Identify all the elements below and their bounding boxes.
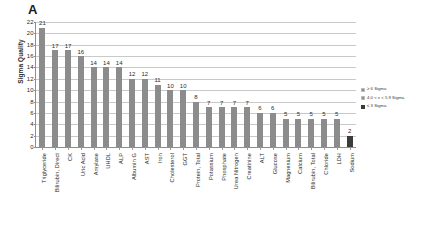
legend-color-swatch <box>361 105 365 109</box>
bar[interactable] <box>91 67 97 147</box>
bar[interactable] <box>167 90 173 147</box>
x-axis-tick-label: Triglyceride <box>42 153 48 183</box>
bar[interactable] <box>193 102 199 147</box>
bar-group[interactable]: 2Sodium <box>343 22 356 147</box>
x-axis-tick-label: Albumin G <box>132 153 138 180</box>
legend-label: ≥ 6 Sigma <box>367 87 386 91</box>
bar-group[interactable]: 10GGT <box>177 22 190 147</box>
x-axis-tick-mark <box>260 147 261 150</box>
bar[interactable] <box>39 28 45 147</box>
y-axis-tick-label: 2 <box>30 133 33 139</box>
bar-group[interactable]: 14Amylase <box>87 22 100 147</box>
bar-group[interactable]: 17Bilirubin, Direct <box>49 22 62 147</box>
bar[interactable] <box>219 107 225 147</box>
bar-value-label: 7 <box>220 100 223 106</box>
bar[interactable] <box>116 67 122 147</box>
legend-item[interactable]: 4.0 < x < 5.9 Sigma <box>361 95 429 102</box>
x-axis-tick-mark <box>209 147 210 150</box>
bar-group[interactable]: 5Magnesium <box>279 22 292 147</box>
bar-value-label: 17 <box>65 43 72 49</box>
bar[interactable] <box>206 107 212 147</box>
bar-value-label: 5 <box>335 111 338 117</box>
bar-value-label: 8 <box>194 94 197 100</box>
bar-series: 21Triglyceride17Bilirubin, Direct17CK16U… <box>36 22 356 147</box>
x-axis-tick-mark <box>298 147 299 150</box>
bar-group[interactable]: 6ALT <box>254 22 267 147</box>
bar-value-label: 5 <box>310 111 313 117</box>
bar[interactable] <box>180 90 186 147</box>
x-axis-tick-label: Magnesium <box>286 153 292 183</box>
bar-value-label: 6 <box>258 105 261 111</box>
legend-item[interactable]: ≤ 3 Sigma <box>361 103 429 110</box>
bar-value-label: 14 <box>103 60 110 66</box>
y-axis-tick-label: 8 <box>30 99 33 105</box>
bar-group[interactable]: 14ALP <box>113 22 126 147</box>
bar[interactable] <box>270 113 276 147</box>
bar-group[interactable]: 16Uric Acid <box>74 22 87 147</box>
bar-group[interactable]: 8Protein, Total <box>190 22 203 147</box>
bar[interactable] <box>78 56 84 147</box>
bar-group[interactable]: 5Chloride <box>318 22 331 147</box>
x-axis-tick-label: Uric Acid <box>81 153 87 176</box>
legend-item[interactable]: ≥ 6 Sigma <box>361 86 429 93</box>
bar-group[interactable]: 6Glucose <box>266 22 279 147</box>
x-axis-tick-label: Calcium <box>298 153 304 174</box>
bar-group[interactable]: 17CK <box>62 22 75 147</box>
x-axis-tick-label: Iron <box>158 153 164 163</box>
bar-value-label: 10 <box>167 83 174 89</box>
bar-group[interactable]: 14UHDL <box>100 22 113 147</box>
bar-value-label: 14 <box>116 60 123 66</box>
bar[interactable] <box>334 119 340 147</box>
x-axis-tick-label: Protein, Total <box>196 153 202 187</box>
y-axis-tick-label: 10 <box>27 87 34 93</box>
bar[interactable] <box>283 119 289 147</box>
bar[interactable] <box>244 107 250 147</box>
x-axis-tick-mark <box>68 147 69 150</box>
bar[interactable] <box>257 113 263 147</box>
bar[interactable] <box>231 107 237 147</box>
x-axis-tick-label: Amylase <box>94 153 100 175</box>
y-axis-title: Sigma Quality <box>17 17 24 107</box>
bar-group[interactable]: 5LDH <box>330 22 343 147</box>
x-axis-tick-mark <box>42 147 43 150</box>
bar[interactable] <box>65 50 71 147</box>
x-axis-tick-label: LDH <box>337 153 343 165</box>
bar-group[interactable]: 7Potassium <box>202 22 215 147</box>
panel-label: A <box>28 2 37 17</box>
y-axis-tick-label: 6 <box>30 110 33 116</box>
bar-group[interactable]: 21Triglyceride <box>36 22 49 147</box>
x-axis-tick-mark <box>158 147 159 150</box>
bar[interactable] <box>347 136 353 147</box>
bar-group[interactable]: 11Iron <box>151 22 164 147</box>
bar[interactable] <box>52 50 58 147</box>
figure-panel-a: A Sigma Quality 0246810121416182022 21Tr… <box>0 0 432 225</box>
y-axis-tick-label: 0 <box>30 144 33 150</box>
bar-group[interactable]: 7Phosphate <box>215 22 228 147</box>
bar[interactable] <box>103 67 109 147</box>
bar-group[interactable]: 12AST <box>138 22 151 147</box>
bar-group[interactable]: 12Albumin G <box>126 22 139 147</box>
bar-group[interactable]: 7Creatinine <box>241 22 254 147</box>
bar-group[interactable]: 5Bilirubin, Total <box>305 22 318 147</box>
bar-value-label: 12 <box>141 71 148 77</box>
bar[interactable] <box>155 85 161 148</box>
x-axis-tick-mark <box>183 147 184 150</box>
bar-group[interactable]: 5Calcium <box>292 22 305 147</box>
x-axis-tick-label: ALP <box>119 153 125 164</box>
bar-group[interactable]: 10Cholesterol <box>164 22 177 147</box>
bar-value-label: 17 <box>52 43 59 49</box>
bar[interactable] <box>308 119 314 147</box>
x-axis-tick-mark <box>247 147 248 150</box>
bar[interactable] <box>321 119 327 147</box>
bar[interactable] <box>295 119 301 147</box>
bar-group[interactable]: 7Urea Nitrogen <box>228 22 241 147</box>
x-axis-tick-mark <box>286 147 287 150</box>
x-axis-tick-label: AST <box>145 153 151 164</box>
bar-value-label: 7 <box>246 100 249 106</box>
bar-value-label: 5 <box>322 111 325 117</box>
bar[interactable] <box>129 79 135 147</box>
x-axis-tick-mark <box>94 147 95 150</box>
x-axis-tick-mark <box>55 147 56 150</box>
bar-value-label: 12 <box>129 71 136 77</box>
bar[interactable] <box>142 79 148 147</box>
